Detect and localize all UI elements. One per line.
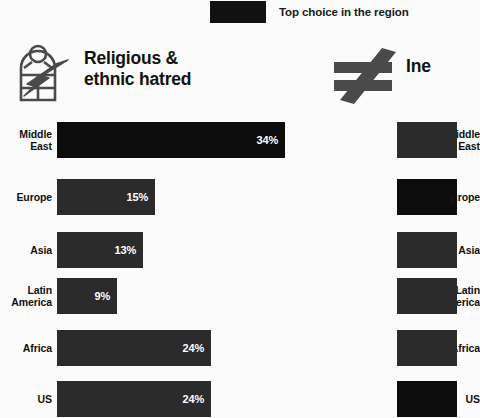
bar-us: [397, 381, 457, 417]
bar-row: Africa: [330, 330, 480, 366]
bar-value-label: 13%: [115, 244, 136, 256]
bar-value-label: 24%: [183, 393, 204, 405]
broken-stained-glass-window-icon: [12, 42, 74, 104]
bar-middle-east: [397, 122, 457, 158]
bar-latin-america: 9%: [57, 278, 117, 314]
bar-value-label: 24%: [183, 342, 204, 354]
not-equal-sign-icon: [332, 48, 398, 104]
bar-europe: 15%: [57, 179, 155, 215]
bar-row: US 24%: [0, 381, 300, 417]
bar-row: Latin America 9%: [0, 278, 300, 314]
bar-row: US: [330, 381, 480, 417]
bar-value-label: 34%: [257, 134, 278, 146]
panel-religious-ethnic-hatred: Religious & ethnic hatred Middle East 34…: [0, 0, 300, 418]
bar-asia: [397, 232, 457, 268]
bar-value-label: 9%: [95, 290, 111, 302]
bar-row: Europe: [330, 179, 480, 215]
panel-inequality: Ine Middle East Europe Asia Latin Americ…: [330, 0, 480, 418]
bar-row: Asia: [330, 232, 480, 268]
bar-africa: [397, 330, 457, 366]
bar-row-label: Latin America: [0, 284, 52, 309]
bar-row: Europe 15%: [0, 179, 300, 215]
bar-value-label: 15%: [127, 191, 148, 203]
bar-us: 24%: [57, 381, 211, 417]
bar-middle-east: 34%: [57, 122, 285, 158]
panel-title-right: Ine: [406, 42, 431, 77]
bar-latin-america: [397, 278, 457, 314]
bar-row: Asia 13%: [0, 232, 300, 268]
panel-title-left: Religious & ethnic hatred: [84, 42, 191, 91]
bar-row-label: Asia: [0, 244, 52, 256]
bar-row: Latin America: [330, 278, 480, 314]
bar-europe: [397, 179, 457, 215]
bar-row-label: Africa: [0, 342, 52, 354]
bar-asia: 13%: [57, 232, 143, 268]
bar-row-label: Europe: [0, 191, 52, 203]
panel-header-right: Ine: [332, 42, 431, 104]
bar-row: Middle East: [330, 122, 480, 158]
bar-row-label: Middle East: [0, 128, 52, 153]
panel-header-left: Religious & ethnic hatred: [12, 42, 191, 104]
bar-row: Africa 24%: [0, 330, 300, 366]
bar-row-label: US: [0, 393, 52, 405]
bar-row: Middle East 34%: [0, 122, 300, 158]
bar-africa: 24%: [57, 330, 211, 366]
